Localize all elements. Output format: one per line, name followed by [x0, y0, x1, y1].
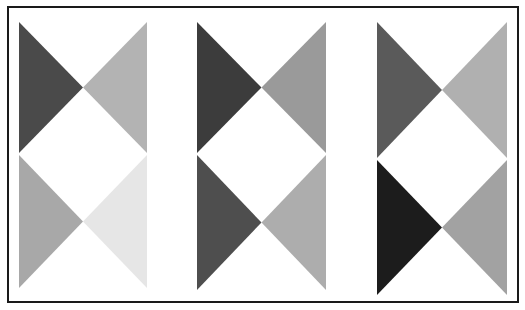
triangle-right-top-left	[377, 22, 442, 158]
triangle-middle-top-left	[197, 22, 262, 153]
triangle-middle-bottom-left	[197, 155, 262, 290]
triangle-left-top-left	[19, 22, 83, 153]
panel-right	[377, 22, 507, 295]
triangle-left-top-right	[83, 22, 147, 153]
panel-left	[19, 22, 147, 288]
triangle-middle-top-right	[262, 22, 327, 153]
triangle-left-bottom-right	[83, 155, 147, 288]
bowtie-figure	[0, 0, 525, 310]
figure-frame	[8, 7, 518, 302]
triangle-right-top-right	[442, 22, 507, 158]
triangle-left-bottom-left	[19, 155, 83, 288]
triangle-right-bottom-right	[442, 160, 507, 295]
panel-middle	[197, 22, 326, 290]
triangle-right-bottom-left	[377, 160, 442, 295]
panels-group	[19, 22, 507, 295]
triangle-middle-bottom-right	[262, 155, 327, 290]
